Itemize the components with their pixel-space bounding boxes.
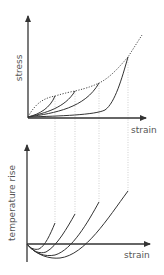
strain-label-lower: strain bbox=[124, 250, 150, 260]
temperature-curves bbox=[27, 191, 128, 258]
stress-temperature-diagram: stress strain temperature rise strain bbox=[0, 0, 164, 275]
envelope-curve bbox=[28, 35, 142, 117]
strain-label-upper: strain bbox=[131, 125, 157, 135]
stress-label: stress bbox=[14, 54, 24, 81]
temperature-rise-label: temperature rise bbox=[7, 165, 17, 241]
stress-curves bbox=[28, 57, 128, 117]
upper-plot: stress strain bbox=[14, 16, 157, 135]
lower-plot: temperature rise strain bbox=[7, 145, 150, 262]
dotted-guides bbox=[55, 57, 128, 223]
